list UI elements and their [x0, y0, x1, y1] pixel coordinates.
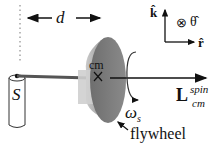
- flywheel-disk: [78, 37, 126, 123]
- into-page-symbol: ⊗: [176, 16, 187, 29]
- gyroscope-diagram: d S cm k̂ ⊗ θ̂ r̂ ωs L spin cm flywheel: [0, 0, 217, 151]
- omega-symbol: ω: [125, 103, 137, 122]
- r-hat-label: r̂: [198, 36, 204, 49]
- angular-velocity-label: ωs: [125, 104, 141, 124]
- omega-subscript: s: [137, 113, 141, 124]
- L-symbol: L: [176, 85, 188, 105]
- theta-hat-label: θ̂: [190, 15, 197, 29]
- angular-momentum-label: L: [176, 86, 188, 104]
- angular-momentum-superscript: spin: [190, 84, 208, 95]
- k-hat-label: k̂: [150, 6, 157, 19]
- flywheel-label: flywheel: [130, 126, 186, 142]
- center-of-mass-label: cm: [89, 59, 104, 71]
- pivot-label: S: [12, 86, 21, 103]
- angular-momentum-subscript: cm: [192, 98, 205, 109]
- distance-label: d: [56, 9, 65, 26]
- rotation-arrow: [127, 52, 138, 100]
